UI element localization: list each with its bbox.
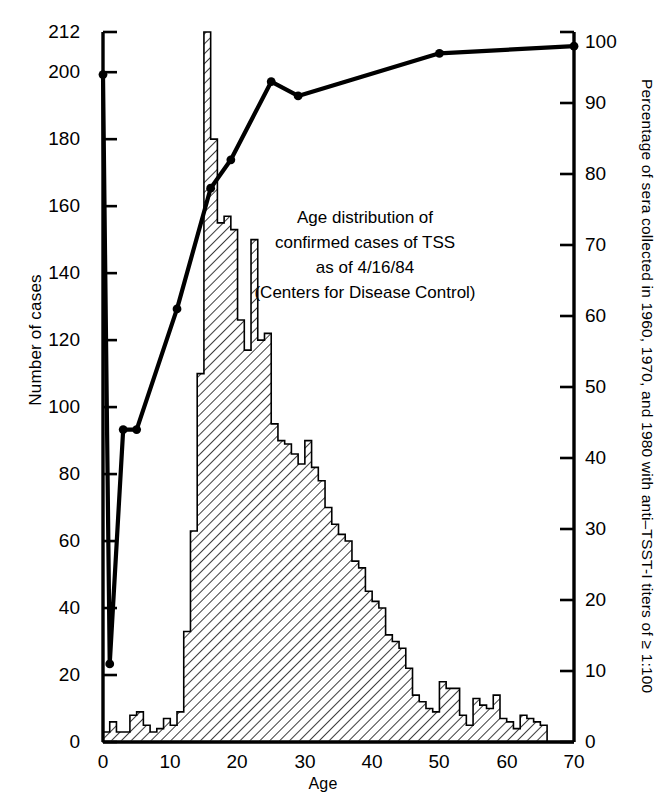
data-point-age-3	[119, 425, 128, 434]
data-point-age-29	[294, 92, 303, 101]
histogram-outline	[103, 32, 574, 742]
data-point-age-25	[267, 77, 276, 86]
data-point-age-11	[173, 305, 182, 314]
histogram-bars	[103, 32, 574, 742]
data-point-age-19	[226, 155, 235, 164]
data-point-age-70	[570, 42, 579, 51]
right-tickmarks	[560, 32, 574, 742]
data-point-age-1	[105, 660, 114, 669]
data-point-age-50	[435, 49, 444, 58]
data-point-age-16	[206, 184, 215, 193]
data-point-age-0	[99, 70, 108, 79]
data-point-age-5	[132, 425, 141, 434]
